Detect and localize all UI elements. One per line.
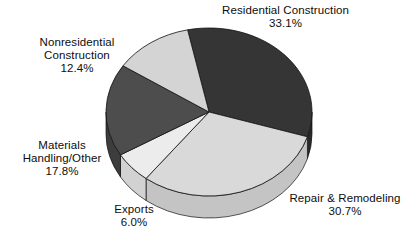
slice-label-residential-construction-name: Residential Construction [222, 4, 349, 17]
slice-label-repair-remodeling: Repair & Remodeling 30.7% [276, 192, 414, 218]
slice-label-residential-construction: Residential Construction 33.1% [222, 4, 349, 30]
pie-chart-figure: Residential Construction 33.1% Nonreside… [0, 0, 415, 243]
slice-label-materials-handling-other-name-line2: Handling/Other [2, 152, 122, 165]
slice-label-nonresidential-construction: Nonresidential Construction 12.4% [18, 36, 136, 76]
slice-label-repair-remodeling-value: 30.7% [276, 205, 414, 218]
slice-label-nonresidential-construction-name-line2: Construction [18, 49, 136, 62]
slice-label-residential-construction-value: 33.1% [222, 17, 349, 30]
slice-label-materials-handling-other: Materials Handling/Other 17.8% [2, 139, 122, 179]
slice-label-nonresidential-construction-name-line1: Nonresidential [18, 36, 136, 49]
slice-label-repair-remodeling-name: Repair & Remodeling [276, 192, 414, 205]
slice-label-materials-handling-other-value: 17.8% [2, 165, 122, 178]
slice-label-exports-value: 6.0% [92, 216, 176, 229]
pie-top-faces [106, 28, 312, 196]
slice-label-nonresidential-construction-value: 12.4% [18, 62, 136, 75]
slice-label-exports: Exports 6.0% [92, 203, 176, 229]
slice-label-materials-handling-other-name-line1: Materials [2, 139, 122, 152]
slice-label-exports-name: Exports [92, 203, 176, 216]
